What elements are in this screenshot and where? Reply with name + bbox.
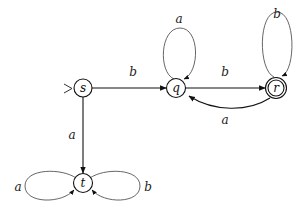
edge-q-r: b [186,65,265,88]
state-label: q [172,81,180,95]
edge-label: b [129,65,137,79]
edge-t-t-loop-right: b [90,171,152,200]
edge-q-q-loop: a [163,12,195,79]
edge-s-q: b [92,65,166,88]
edge-label: b [221,65,229,79]
state-t: t [74,174,93,193]
edge-label: a [14,180,21,194]
state-label: s [80,81,86,95]
edge-label: b [144,180,152,194]
edge-r-r-loop: b [262,7,292,77]
edge-label: b [273,7,281,21]
edge-t-t-loop-left: a [14,171,76,200]
state-r-accepting: r [266,78,287,99]
edge-label: a [68,128,75,142]
automaton-diagram: b a a b b a a b s q r [0,0,305,215]
edge-r-q: a [189,96,270,127]
edge-label: a [221,113,228,127]
edge-label: a [175,12,182,26]
state-q: q [167,79,186,98]
state-s: s [74,79,92,97]
start-marker [64,84,72,93]
state-label: t [81,176,86,190]
edge-s-t: a [68,97,83,173]
